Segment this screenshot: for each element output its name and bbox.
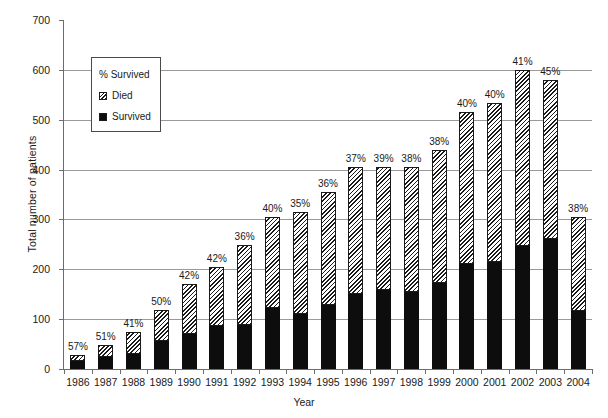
x-tick-label: 1999	[427, 376, 450, 389]
x-tick-label: 1993	[261, 376, 284, 389]
x-tick-mark	[120, 369, 121, 374]
bar-segment-died	[126, 332, 141, 354]
y-tick-label: 200	[32, 264, 50, 274]
bar-percent-label: 36%	[235, 232, 255, 242]
bar-segment-survived	[182, 334, 197, 369]
bar-segment-survived	[209, 326, 224, 369]
bar-2000[interactable]	[459, 112, 474, 369]
x-tick-mark	[564, 369, 565, 374]
y-tick-label: 0	[44, 364, 50, 374]
bar-percent-label: 40%	[457, 99, 477, 109]
bar-1994[interactable]	[293, 212, 308, 369]
bar-segment-survived	[98, 357, 113, 369]
bar-1988[interactable]	[126, 332, 141, 369]
bar-2002[interactable]	[515, 70, 530, 369]
bar-segment-died	[459, 112, 474, 264]
bar-2004[interactable]	[571, 217, 586, 369]
bar-1986[interactable]	[70, 355, 85, 369]
x-axis-tick-labels: 1986198719881989199019911992199319941995…	[64, 376, 592, 390]
legend-title-row: % Survived	[99, 64, 154, 85]
bar-1999[interactable]	[432, 150, 447, 369]
bar-segment-died	[432, 150, 447, 283]
bar-segment-survived	[571, 311, 586, 369]
legend-label-survived: Survived	[112, 111, 151, 122]
y-tick-label: 100	[32, 314, 50, 324]
y-tick-label: 700	[32, 15, 50, 25]
bar-segment-survived	[376, 290, 391, 369]
x-tick-mark	[453, 369, 454, 374]
bar-percent-label: 38%	[568, 204, 588, 214]
bar-segment-died	[209, 267, 224, 326]
bar-segment-survived	[154, 341, 169, 369]
x-tick-mark	[370, 369, 371, 374]
bar-1989[interactable]	[154, 310, 169, 369]
bar-percent-label: 35%	[290, 199, 310, 209]
bar-chart: Total number of patients 010020030040050…	[0, 0, 608, 418]
x-tick-label: 2004	[566, 376, 589, 389]
bar-segment-died	[571, 217, 586, 311]
bar-percent-label: 40%	[485, 90, 505, 100]
x-tick-label: 1995	[316, 376, 339, 389]
bar-segment-died	[182, 284, 197, 333]
bar-percent-label: 45%	[540, 67, 560, 77]
bar-percent-label: 50%	[151, 297, 171, 307]
x-tick-label: 2001	[483, 376, 506, 389]
bar-percent-label: 39%	[374, 154, 394, 164]
bar-percent-label: 38%	[401, 154, 421, 164]
y-tick-label: 300	[32, 214, 50, 224]
bar-1998[interactable]	[404, 167, 419, 369]
x-tick-mark	[536, 369, 537, 374]
bar-percent-label: 41%	[513, 57, 533, 67]
survived-swatch-icon	[99, 113, 107, 121]
bar-segment-died	[515, 70, 530, 246]
bar-1997[interactable]	[376, 167, 391, 369]
bar-segment-survived	[404, 292, 419, 369]
bar-percent-label: 51%	[96, 332, 116, 342]
x-tick-mark	[64, 369, 65, 374]
bar-1990[interactable]	[182, 284, 197, 369]
legend-label-died: Died	[112, 90, 133, 101]
bar-segment-died	[487, 103, 502, 262]
legend-item-survived: Survived	[99, 106, 154, 127]
x-tick-mark	[481, 369, 482, 374]
bar-percent-label: 42%	[179, 271, 199, 281]
bar-percent-label: 37%	[346, 154, 366, 164]
x-axis-title: Year	[0, 396, 608, 408]
x-tick-label: 1994	[289, 376, 312, 389]
x-tick-label: 1988	[122, 376, 145, 389]
bar-segment-died	[98, 345, 113, 357]
bar-percent-label: 41%	[123, 319, 143, 329]
x-tick-label: 1991	[205, 376, 228, 389]
x-tick-mark	[286, 369, 287, 374]
bar-segment-died	[376, 167, 391, 290]
bar-2003[interactable]	[543, 80, 558, 369]
x-tick-label: 2000	[455, 376, 478, 389]
bar-segment-died	[321, 192, 336, 305]
y-tick-label: 400	[32, 165, 50, 175]
x-tick-label: 1987	[94, 376, 117, 389]
x-tick-mark	[314, 369, 315, 374]
bar-1991[interactable]	[209, 267, 224, 369]
bar-1987[interactable]	[98, 345, 113, 369]
bar-segment-survived	[348, 294, 363, 369]
bar-2001[interactable]	[487, 103, 502, 369]
bar-segment-died	[293, 212, 308, 314]
bar-1992[interactable]	[237, 245, 252, 369]
bar-segment-survived	[321, 305, 336, 369]
x-tick-label: 1997	[372, 376, 395, 389]
x-tick-label: 1992	[233, 376, 256, 389]
bar-1993[interactable]	[265, 217, 280, 369]
bar-1995[interactable]	[321, 192, 336, 369]
y-tick-label: 600	[32, 65, 50, 75]
bar-segment-died	[154, 310, 169, 341]
bar-percent-label: 57%	[68, 342, 88, 352]
bar-segment-survived	[126, 354, 141, 369]
bar-percent-label: 38%	[429, 137, 449, 147]
bar-1996[interactable]	[348, 167, 363, 369]
bar-segment-survived	[293, 314, 308, 369]
x-tick-mark	[397, 369, 398, 374]
bar-segment-survived	[237, 325, 252, 369]
x-tick-mark	[175, 369, 176, 374]
x-tick-mark	[147, 369, 148, 374]
legend-title: % Survived	[99, 69, 150, 80]
